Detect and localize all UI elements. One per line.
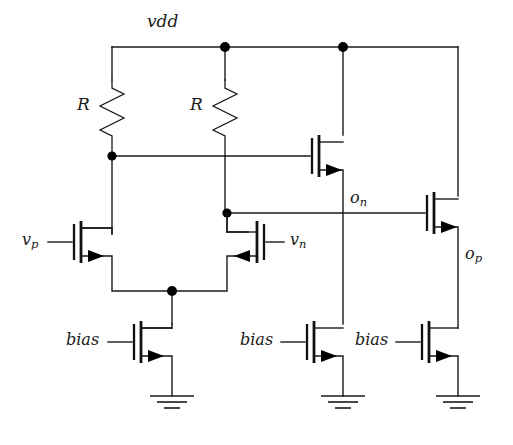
vn-label: vn — [290, 232, 306, 251]
node-drain-left — [107, 151, 116, 160]
output-source-lead — [434, 227, 458, 328]
vn-source-arrow — [234, 250, 250, 262]
nmos-tail-bias — [108, 321, 172, 396]
resistor-left-zigzag — [100, 80, 124, 156]
ground-right — [436, 396, 480, 408]
vp-source-lead — [81, 256, 172, 291]
nmos-input-vp — [48, 221, 172, 291]
bias-mid-label: bias — [240, 332, 273, 348]
vdd-rail — [112, 47, 458, 196]
bias-right-source-arrow — [436, 350, 452, 362]
on-label: on — [350, 190, 367, 209]
nmos-bias-mid — [281, 321, 343, 396]
circuit-schematic-svg — [0, 0, 513, 445]
bias-left-source-arrow — [148, 350, 164, 362]
left-drain-net — [107, 151, 310, 234]
node-vdd-mid — [220, 42, 230, 52]
bias-mid-source-arrow — [321, 350, 337, 362]
bias-left-label: bias — [66, 332, 99, 348]
tail-node-net — [167, 286, 177, 324]
vp-source-arrow — [88, 250, 104, 262]
ground-left — [150, 396, 194, 408]
bias-right-source-lead — [429, 356, 458, 396]
nmos-mirror-on — [312, 135, 343, 324]
vn-source-lead — [172, 256, 257, 291]
vp-label-base: v — [22, 230, 31, 249]
resistor-right-label: R — [190, 96, 203, 113]
on-label-base: o — [350, 188, 360, 207]
mirror-source-arrow — [326, 164, 342, 176]
bias-left-source-lead — [141, 356, 172, 396]
on-label-sub: n — [360, 195, 367, 209]
bias-mid-source-lead — [314, 356, 343, 396]
schematic-canvas: vdd R R vp vn on op bias bias bias — [0, 0, 513, 445]
resistor-left-symbol — [100, 80, 124, 156]
nmos-output-op — [427, 192, 458, 328]
output-source-arrow — [441, 221, 457, 233]
nmos-bias-right — [396, 321, 458, 396]
vp-drain-lead — [81, 228, 112, 234]
vdd-label: vdd — [147, 13, 178, 30]
resistor-right-zigzag — [213, 80, 237, 156]
mirror-source-lead — [319, 170, 343, 324]
op-label-base: o — [465, 244, 475, 263]
vp-label-sub: p — [31, 237, 38, 251]
node-tail — [167, 286, 177, 296]
nmos-input-vn — [172, 213, 284, 291]
vn-label-sub: n — [299, 237, 306, 251]
node-vdd-right — [338, 42, 348, 52]
bias-right-label: bias — [355, 332, 388, 348]
resistor-left-label: R — [77, 96, 90, 113]
right-drain-net — [222, 156, 425, 232]
resistor-right-symbol — [213, 80, 237, 156]
vn-label-base: v — [290, 230, 299, 249]
vp-label: vp — [22, 232, 38, 251]
op-label: op — [465, 246, 482, 265]
op-label-sub: p — [475, 251, 482, 265]
ground-mid — [321, 396, 365, 408]
